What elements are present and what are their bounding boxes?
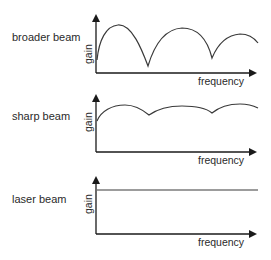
y-axis-label: gain bbox=[82, 194, 94, 214]
beam-gain-diagrams: gain frequency gain frequency gain frequ… bbox=[0, 0, 271, 260]
x-axis-label: frequency bbox=[198, 75, 245, 87]
x-axis-label: frequency bbox=[198, 154, 245, 166]
broader-beam-plot: gain frequency bbox=[82, 16, 258, 87]
gain-curve bbox=[97, 104, 258, 121]
gain-curve bbox=[97, 25, 258, 66]
x-axis-label: frequency bbox=[198, 236, 245, 248]
y-axis-label: gain bbox=[82, 44, 94, 64]
y-axis-label: gain bbox=[82, 112, 94, 132]
laser-beam-plot: gain frequency bbox=[82, 178, 258, 248]
sharp-beam-plot: gain frequency bbox=[82, 96, 258, 166]
